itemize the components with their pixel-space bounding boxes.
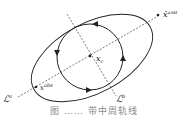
axis-line-a [18,16,158,97]
arrow-right-icon [120,55,126,61]
axis-line-b [67,14,116,96]
observed-point [35,86,38,89]
label-unstable: x̄unst [163,10,178,19]
label-line-a: ℒa [3,93,12,104]
outer-ellipse [17,0,166,118]
unstable-point [157,14,160,17]
label-line-b: ℒb [116,93,125,104]
label-observed: xobs [40,82,53,92]
arrow-top-icon [92,21,98,27]
figure-caption: 图 …… 带中周轨线 [0,104,188,117]
label-center: xc [96,54,104,64]
arrow-left-icon [54,50,60,56]
arrow-bottom-icon [86,87,92,93]
center-point [89,55,92,58]
diagram: x̄unst xc xobs ℒa ℒb [0,0,188,118]
